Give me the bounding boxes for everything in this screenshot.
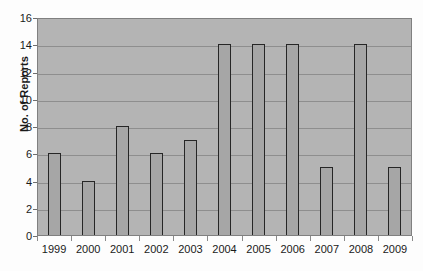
bar-slot-2003 [174,19,208,235]
x-tick-label-2001: 2001 [105,243,139,263]
y-tick-label-0: 0 [10,230,32,242]
y-tick-label-12: 12 [10,67,32,79]
y-tick-mark-2 [33,209,37,210]
bar-chart: No. of Reports 0246810121416 19992000200… [0,0,423,271]
y-tick-mark-12 [33,73,37,74]
bar-2003[interactable] [184,140,197,235]
bar-2002[interactable] [150,153,163,235]
x-tick-label-2000: 2000 [71,243,105,263]
bar-slot-2004 [208,19,242,235]
x-tick-label-2005: 2005 [242,243,276,263]
y-tick-label-10: 10 [10,94,32,106]
y-axis-tick-labels: 0246810121416 [10,18,32,236]
x-tick-mark-2 [105,236,106,241]
x-tick-mark-6 [242,236,243,241]
y-tick-mark-8 [33,127,37,128]
x-tick-label-2008: 2008 [344,243,378,263]
bar-slot-2000 [72,19,106,235]
bar-slot-2005 [241,19,275,235]
y-tick-mark-0 [33,236,37,237]
bar-2006[interactable] [286,44,299,235]
x-tick-mark-1 [71,236,72,241]
x-axis-tick-labels: 1999200020012002200320042005200620072008… [37,243,412,263]
bar-2000[interactable] [82,181,95,236]
bar-2001[interactable] [116,126,129,235]
y-tick-mark-6 [33,154,37,155]
x-tick-mark-8 [310,236,311,241]
x-tick-label-2006: 2006 [276,243,310,263]
bars-group [38,19,411,235]
y-tick-label-6: 6 [10,148,32,160]
x-tick-mark-10 [378,236,379,241]
x-tick-label-2009: 2009 [378,243,412,263]
x-tick-label-2007: 2007 [310,243,344,263]
y-tick-mark-16 [33,18,37,19]
y-tick-label-4: 4 [10,176,32,188]
x-tick-mark-5 [207,236,208,241]
bar-slot-2007 [309,19,343,235]
x-tick-mark-3 [139,236,140,241]
bar-2007[interactable] [320,167,333,235]
y-tick-label-2: 2 [10,203,32,215]
x-tick-mark-4 [173,236,174,241]
bar-slot-2001 [106,19,140,235]
bar-2004[interactable] [218,44,231,235]
bar-2009[interactable] [388,167,401,235]
x-tick-mark-9 [344,236,345,241]
x-tick-label-2002: 2002 [139,243,173,263]
bar-1999[interactable] [48,153,61,235]
bar-slot-2006 [275,19,309,235]
x-tick-mark-0 [37,236,38,241]
plot-area [37,18,412,236]
x-tick-mark-7 [276,236,277,241]
x-tick-label-2003: 2003 [173,243,207,263]
bar-slot-1999 [38,19,72,235]
y-tick-label-16: 16 [10,12,32,24]
bar-slot-2009 [377,19,411,235]
x-tick-mark-11 [412,236,413,241]
y-tick-label-14: 14 [10,39,32,51]
bar-2008[interactable] [354,44,367,235]
y-tick-mark-10 [33,100,37,101]
bar-slot-2002 [140,19,174,235]
y-tick-label-8: 8 [10,121,32,133]
bar-slot-2008 [343,19,377,235]
y-tick-mark-4 [33,182,37,183]
y-tick-mark-14 [33,45,37,46]
bar-2005[interactable] [252,44,265,235]
x-axis-tick-marks [37,236,412,241]
x-tick-label-1999: 1999 [37,243,71,263]
x-tick-label-2004: 2004 [207,243,241,263]
